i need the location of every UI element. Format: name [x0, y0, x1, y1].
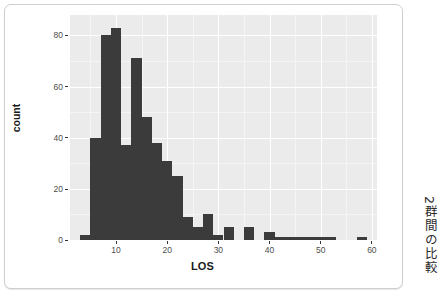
gridline-major-v	[270, 15, 271, 240]
y-tick-label: 20	[54, 184, 63, 194]
gridline-major-v	[218, 15, 219, 240]
footer-text-strip	[18, 298, 418, 307]
x-tick-mark	[371, 241, 372, 244]
histogram-bar	[142, 117, 152, 240]
x-tick: 30	[203, 241, 233, 255]
y-tick-label: 60	[54, 82, 63, 92]
x-tick-label: 20	[162, 245, 171, 255]
gridline-minor-v	[244, 15, 245, 240]
x-tick: 40	[255, 241, 285, 255]
histogram-bar	[316, 237, 326, 240]
x-tick: 10	[101, 241, 131, 255]
y-tick-mark	[65, 189, 68, 190]
gridline-minor-v	[193, 15, 194, 240]
histogram-bar	[295, 237, 305, 240]
x-tick-mark	[116, 241, 117, 244]
gridline-minor-v	[346, 15, 347, 240]
x-tick-mark	[218, 241, 219, 244]
gridline-major-v	[372, 15, 373, 240]
histogram-bar	[264, 232, 274, 240]
histogram-bar	[285, 237, 295, 240]
x-tick-mark	[320, 241, 321, 244]
histogram-bar	[326, 237, 336, 240]
x-axis-title: LOS	[4, 260, 401, 272]
y-tick-label: 0	[58, 235, 63, 245]
histogram-bar	[244, 227, 254, 240]
gridline-major-v	[321, 15, 322, 240]
x-tick: 20	[152, 241, 182, 255]
histogram-bar	[357, 237, 367, 240]
y-tick-label: 40	[54, 133, 63, 143]
y-tick-mark	[65, 86, 68, 87]
x-tick-label: 10	[111, 245, 120, 255]
x-tick: 50	[306, 241, 336, 255]
y-tick-mark	[65, 137, 68, 138]
histogram-bar	[193, 227, 203, 240]
y-tick-mark	[65, 240, 68, 241]
x-tick-label: 40	[265, 245, 274, 255]
histogram-plot: 020406080 102030405060 LOS count	[4, 4, 401, 287]
histogram-bar	[213, 235, 223, 240]
histogram-bar	[90, 138, 100, 240]
y-tick: 0	[4, 235, 68, 245]
histogram-bar	[152, 143, 162, 240]
plot-panel	[70, 15, 377, 240]
histogram-bar	[162, 161, 172, 240]
x-tick-mark	[269, 241, 270, 244]
histogram-bar	[275, 237, 285, 240]
screenshot-root: 020406080 102030405060 LOS count 2群間の比較	[0, 0, 443, 307]
histogram-bar	[172, 176, 182, 240]
y-axis-title: count	[10, 68, 22, 168]
histogram-bar	[224, 227, 234, 240]
x-tick-label: 30	[214, 245, 223, 255]
histogram-bar	[183, 217, 193, 240]
x-tick-label: 50	[316, 245, 325, 255]
histogram-bar	[121, 145, 131, 240]
histogram-bar	[80, 235, 90, 240]
x-tick: 60	[357, 241, 387, 255]
side-vertical-label: 2群間の比較	[414, 196, 436, 275]
y-tick: 80	[4, 30, 68, 40]
histogram-bar	[111, 28, 121, 240]
y-tick-label: 80	[54, 30, 63, 40]
gridline-minor-v	[295, 15, 296, 240]
x-tick-mark	[167, 241, 168, 244]
histogram-bar	[305, 237, 315, 240]
histogram-bar	[203, 214, 213, 240]
y-tick-mark	[65, 35, 68, 36]
histogram-bar	[101, 35, 111, 240]
y-tick: 20	[4, 184, 68, 194]
x-tick-label: 60	[367, 245, 376, 255]
histogram-bar	[131, 58, 141, 240]
